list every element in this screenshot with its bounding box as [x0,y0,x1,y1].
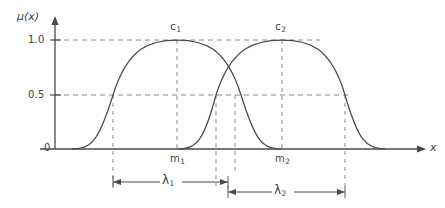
mean-label-m2: m2 [275,154,290,165]
peak-label-c1-sub: 1 [176,25,181,34]
lambda2-arrowhead-right [337,189,345,195]
mean-label-m2-text: m [275,153,285,164]
peak-label-c2: c2 [275,21,286,33]
lambda1-arrowhead-left [113,179,121,185]
width-label-lambda2: λ2 [274,184,286,197]
lambda2-arrowhead-left [228,189,236,195]
mean-label-m1-text: m [170,153,180,164]
x-axis-label: x [430,142,437,153]
peak-label-c1: c1 [170,21,181,33]
fuzzy-membership-figure: μ(x) x 1.0 0.5 0 c1 c2 m1 m2 λ1 λ2 [0,0,445,208]
y-tick-label-0.5: 0.5 [28,90,45,100]
y-axis-arrowhead [51,16,58,25]
mean-label-m2-sub: 2 [285,157,290,166]
peak-label-c1-text: c [170,20,176,32]
peak-label-c2-text: c [275,20,281,32]
y-tick-label-1.0: 1.0 [28,35,45,45]
y-tick-label-0: 0 [44,143,51,153]
width-label-lambda1-sub: 1 [169,179,174,188]
lambda1-arrowhead-right [220,179,228,185]
width-label-lambda2-sub: 2 [281,189,286,198]
mean-label-m1-sub: 1 [180,157,185,166]
membership-curve-c1 [72,40,281,149]
width-label-lambda1: λ1 [162,174,174,187]
y-axis-label: μ(x) [17,11,39,22]
peak-label-c2-sub: 2 [281,25,286,34]
figure-canvas [0,0,445,208]
mean-label-m1: m1 [170,154,185,165]
x-axis-arrowhead [417,145,426,152]
membership-curve-c2 [178,40,385,149]
